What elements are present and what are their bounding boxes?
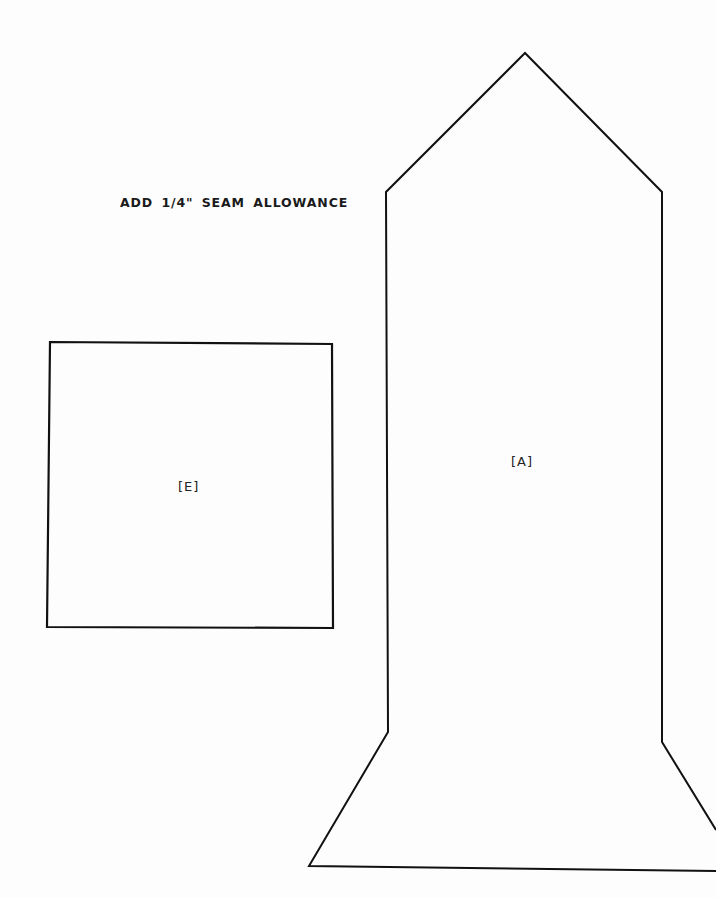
seam-allowance-note: ADD 1/4" SEAM ALLOWANCE [120,195,348,210]
piece-e-label: [E] [178,479,199,494]
pattern-page: ADD 1/4" SEAM ALLOWANCE [E] [A] [0,0,716,898]
piece-a-label: [A] [511,454,533,469]
pattern-outlines [0,0,716,898]
